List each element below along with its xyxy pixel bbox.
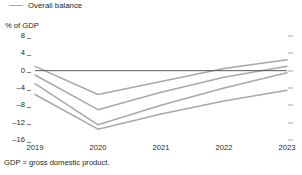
x-axis-tick-label: 2019	[27, 143, 44, 153]
y-axis-tick-mark	[27, 124, 31, 125]
chart-footnote: GDP = gross domestic product.	[4, 158, 110, 168]
chart-figure: Overall balance % of GDP 840–4–8–12–16 2…	[0, 0, 302, 175]
y-axis-title: % of GDP	[5, 21, 39, 30]
right-axis-tick-mark	[288, 70, 293, 71]
y-axis-tick-label: –8	[17, 100, 25, 109]
chart-legend: Overall balance	[9, 1, 82, 10]
y-axis-tick-labels: 840–4–8–12–16	[0, 36, 31, 140]
right-axis-tick-mark	[288, 36, 293, 37]
right-axis-tick-mark	[288, 53, 293, 54]
chart-svg	[35, 36, 287, 140]
plot-area	[35, 36, 287, 140]
x-axis-tick-label: 2020	[90, 143, 107, 153]
y-axis-tick: 0	[21, 67, 31, 75]
x-axis-tick-label: 2022	[216, 143, 233, 153]
right-axis-ticks	[288, 36, 298, 140]
y-axis-tick-label: –12	[12, 118, 25, 127]
y-axis-tick-label: –16	[12, 135, 25, 144]
y-axis-tick-mark	[27, 72, 31, 73]
y-axis-tick-label: 8	[21, 31, 25, 40]
y-axis-tick: 4	[21, 49, 31, 57]
y-axis-tick: 8	[21, 32, 31, 40]
y-axis-tick-label: 0	[21, 66, 25, 75]
right-axis-tick-mark	[288, 122, 293, 123]
y-axis-tick-mark	[27, 107, 31, 108]
y-axis-tick: –4	[17, 84, 31, 92]
y-axis-tick-mark	[27, 55, 31, 56]
x-axis-tick-label: 2021	[153, 143, 170, 153]
y-axis-tick-mark	[27, 90, 31, 91]
series-line	[35, 66, 287, 109]
right-axis-tick-mark	[288, 140, 293, 141]
right-axis-tick-mark	[288, 88, 293, 89]
series-line	[35, 73, 287, 125]
x-axis-tick-labels: 20192020202120222023	[35, 143, 287, 154]
y-axis-tick: –8	[17, 101, 31, 109]
y-axis-tick-label: –4	[17, 83, 25, 92]
right-axis-tick-mark	[288, 105, 293, 106]
line-swatch-icon	[9, 5, 23, 6]
y-axis-tick-mark	[27, 38, 31, 39]
y-axis-tick-label: 4	[21, 48, 25, 57]
y-axis-tick: –12	[12, 119, 31, 127]
legend-item-label: Overall balance	[28, 1, 82, 10]
x-axis-tick-label: 2023	[279, 143, 296, 153]
series-line	[35, 60, 287, 95]
